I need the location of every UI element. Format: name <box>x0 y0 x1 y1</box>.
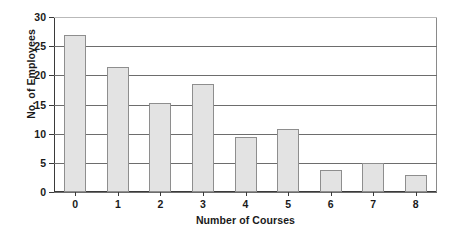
bar <box>235 137 257 192</box>
x-tick-label: 7 <box>370 198 376 210</box>
plot-area: 051015202530 012345678 <box>54 17 437 192</box>
bar <box>277 129 299 192</box>
y-tick-label: 10 <box>34 128 46 140</box>
y-tick-label: 15 <box>34 99 46 111</box>
x-tick-mark <box>246 192 247 196</box>
x-tick-mark <box>416 192 417 196</box>
y-tick-label: 0 <box>40 186 46 198</box>
bar-chart: No. of Employees 051015202530 012345678 … <box>0 0 461 245</box>
x-axis-title: Number of Courses <box>54 214 437 226</box>
bar <box>149 103 171 192</box>
y-tick-label: 30 <box>34 11 46 23</box>
x-tick-label: 3 <box>200 198 206 210</box>
bar <box>362 163 384 192</box>
x-tick-label: 2 <box>157 198 163 210</box>
x-tick-label: 8 <box>413 198 419 210</box>
x-tick-label: 5 <box>285 198 291 210</box>
x-tick-mark <box>203 192 204 196</box>
y-tick-label: 20 <box>34 69 46 81</box>
x-tick-label: 1 <box>115 198 121 210</box>
y-tick-label: 5 <box>40 157 46 169</box>
x-tick-label: 6 <box>328 198 334 210</box>
x-tick-mark <box>331 192 332 196</box>
y-tick-mark <box>49 192 54 193</box>
bar <box>107 67 129 192</box>
x-tick-mark <box>373 192 374 196</box>
bar <box>64 35 86 193</box>
bar <box>320 170 342 192</box>
x-tick-mark <box>288 192 289 196</box>
x-tick-label: 4 <box>243 198 249 210</box>
x-tick-mark <box>75 192 76 196</box>
bar <box>405 175 427 193</box>
y-tick-label: 25 <box>34 40 46 52</box>
x-tick-mark <box>160 192 161 196</box>
bar <box>192 84 214 192</box>
x-tick-mark <box>118 192 119 196</box>
bar-series <box>54 17 437 192</box>
x-tick-label: 0 <box>72 198 78 210</box>
